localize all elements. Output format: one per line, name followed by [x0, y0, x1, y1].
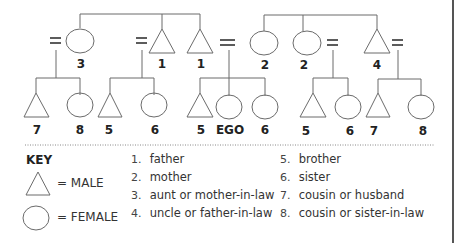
- male-icon: [149, 29, 175, 53]
- label-father: 1: [197, 57, 205, 71]
- sibling-line: [378, 79, 421, 96]
- legend-item: 2. mother: [131, 170, 192, 184]
- key-title: KEY: [26, 153, 52, 167]
- female-icon: [335, 95, 361, 119]
- label-cousin: 8: [419, 124, 427, 138]
- female-icon: [408, 95, 434, 119]
- female-icon: [252, 95, 278, 119]
- label-cousin: 8: [76, 123, 84, 137]
- male-icon: [98, 93, 122, 117]
- legend-item: 1. father: [131, 152, 184, 166]
- label-mother: 2: [300, 58, 308, 72]
- key-female-icon: [23, 206, 49, 230]
- marriage-equals-icon: [136, 38, 147, 43]
- label-cousin: 7: [33, 123, 41, 137]
- female-icon: [141, 93, 167, 117]
- marriage-equals-icon: [392, 40, 403, 45]
- sibling-line: [313, 78, 348, 96]
- legend-item: 5. brother: [280, 152, 341, 166]
- sibling-line-ego: [200, 78, 265, 96]
- label-aunt: 3: [77, 57, 85, 71]
- legend-item: 6. sister: [280, 170, 330, 184]
- female-icon: [293, 31, 321, 55]
- sibling-line: [36, 78, 80, 95]
- label-sister: 6: [151, 123, 159, 137]
- label-cousin: 7: [370, 124, 378, 138]
- male-icon: [187, 29, 213, 53]
- legend-item: 8. cousin or sister-in-law: [280, 206, 424, 220]
- marriage-equals-icon: [50, 38, 61, 43]
- label-father: 1: [158, 57, 166, 71]
- key-female-label: = FEMALE: [57, 210, 118, 224]
- female-icon: [66, 29, 94, 53]
- male-icon: [300, 93, 326, 117]
- sibling-line-paternal: [80, 14, 200, 29]
- marriage-equals-icon-ego-parents: [220, 40, 235, 45]
- legend-item: 4. uncle or father-in-law: [131, 206, 272, 220]
- label-brother: 5: [302, 124, 310, 138]
- label-mother: 2: [261, 58, 269, 72]
- male-icon: [187, 93, 213, 117]
- key-male-icon: [26, 172, 50, 195]
- male-icon: [24, 93, 49, 117]
- sibling-line: [110, 78, 154, 95]
- label-uncle: 4: [373, 58, 381, 72]
- label-brother: 5: [105, 123, 113, 137]
- legend-item: 3. aunt or mother-in-law: [131, 188, 274, 202]
- female-icon: [250, 31, 278, 55]
- label-ego: EGO: [216, 123, 244, 137]
- label-sister: 6: [261, 123, 269, 137]
- label-sister: 6: [346, 124, 354, 138]
- marriage-equals-icon: [327, 40, 338, 45]
- label-brother: 5: [197, 123, 205, 137]
- ego-female-icon: [216, 95, 242, 119]
- male-icon: [366, 93, 390, 117]
- female-icon: [67, 93, 93, 117]
- male-icon: [364, 29, 390, 53]
- key-male-label: = MALE: [57, 176, 104, 190]
- sibling-line-maternal: [264, 15, 377, 31]
- legend-item: 7. cousin or husband: [280, 188, 404, 202]
- right-border-rule: [452, 0, 454, 243]
